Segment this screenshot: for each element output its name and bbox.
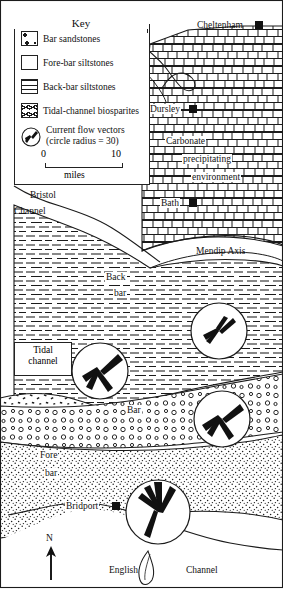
place-label-cheltenham: Cheltenham	[197, 20, 243, 30]
annotation-carbonate-line3: environment	[191, 172, 241, 182]
flow-vector-circle-mid	[194, 391, 250, 447]
key-title: Key	[14, 17, 148, 29]
key-item-fore-bar-siltstones: Fore-bar siltstones	[21, 55, 113, 70]
key-item-tidal-channel-biosparites: Tidal-channel biosparites	[21, 103, 139, 118]
swatch-tidal-channel-biosparites-icon	[21, 103, 38, 118]
place-marker-cheltenham	[255, 21, 263, 29]
place-label-dursley: Dursley	[149, 104, 181, 114]
place-label-bridport: Bridport	[65, 501, 99, 511]
place-marker-bath	[189, 199, 197, 207]
swatch-back-bar-siltstones-icon	[21, 79, 38, 94]
scale-bar-bracket	[45, 163, 123, 168]
swatch-bar-sandstones-icon	[21, 31, 38, 46]
annotation-tidal-channel-line1: Tidal	[33, 345, 53, 355]
annotation-channel: Channel	[186, 565, 218, 575]
key-item-back-bar-siltstones: Back-bar siltstones	[21, 79, 116, 94]
place-label-bath: Bath	[160, 198, 180, 208]
key-label-fore-bar-siltstones: Fore-bar siltstones	[43, 58, 113, 68]
key-label-current-flow-vectors: Current flow vectors (circle radius = 30…	[46, 125, 125, 146]
annotation-carbonate-line1: Carbonate	[165, 136, 206, 146]
annotation-mendip-axis: Mendip Axis	[196, 246, 245, 256]
annotation-bristol-line2: Channel	[14, 206, 46, 216]
place-marker-bridport	[112, 502, 120, 510]
flow-vector-circle-tidal	[72, 343, 128, 399]
flow-vector-circle-north	[191, 303, 247, 359]
flow-vector-circle-south	[126, 480, 190, 544]
palaeogeographic-map-figure: Key Bar sandstones Fore-bar siltstones B…	[0, 0, 283, 607]
annotation-carbonate-line2: precipitating	[182, 154, 232, 164]
key-label-bar-sandstones: Bar sandstones	[43, 34, 100, 44]
place-marker-dursley	[189, 105, 197, 113]
key-item-bar-sandstones: Bar sandstones	[21, 31, 100, 46]
key-legend-box: Bar sandstones Fore-bar siltstones Back-…	[14, 24, 150, 185]
annotation-back-bar-line1: Back	[105, 272, 127, 282]
annotation-fore-bar-line1: Fore	[39, 450, 58, 460]
annotation-bristol-line1: Bristol	[30, 190, 56, 200]
key-label-back-bar-siltstones: Back-bar siltstones	[43, 82, 116, 92]
annotation-fore-bar-line2: bar	[44, 468, 58, 478]
key-item-current-flow-vectors: Current flow vectors (circle radius = 30…	[21, 125, 125, 147]
key-label-tidal-channel-biosparites: Tidal-channel biosparites	[43, 106, 139, 116]
scale-min-label: 0	[41, 148, 46, 159]
annotation-tidal-channel-line2: channel	[28, 356, 58, 366]
annotation-english: English	[109, 565, 138, 575]
swatch-current-flow-vectors-icon	[21, 127, 41, 147]
annotation-back-bar-line2: bar	[113, 288, 127, 298]
scale-units-label: miles	[61, 170, 88, 180]
key-label-current-flow-vectors-line1: Current flow vectors	[46, 125, 125, 135]
swatch-fore-bar-siltstones-icon	[21, 55, 38, 70]
key-title-bar: Key	[14, 17, 148, 31]
scale-bar: 0 10 miles	[37, 148, 149, 161]
carbonate-region	[142, 26, 283, 251]
key-label-current-flow-vectors-line2: (circle radius = 30)	[46, 136, 119, 146]
annotation-north-label: N	[46, 533, 53, 543]
scale-max-label: 10	[111, 148, 121, 159]
annotation-bar: Bar	[126, 405, 142, 415]
tidal-channel-label-box: Tidal channel	[14, 342, 72, 376]
